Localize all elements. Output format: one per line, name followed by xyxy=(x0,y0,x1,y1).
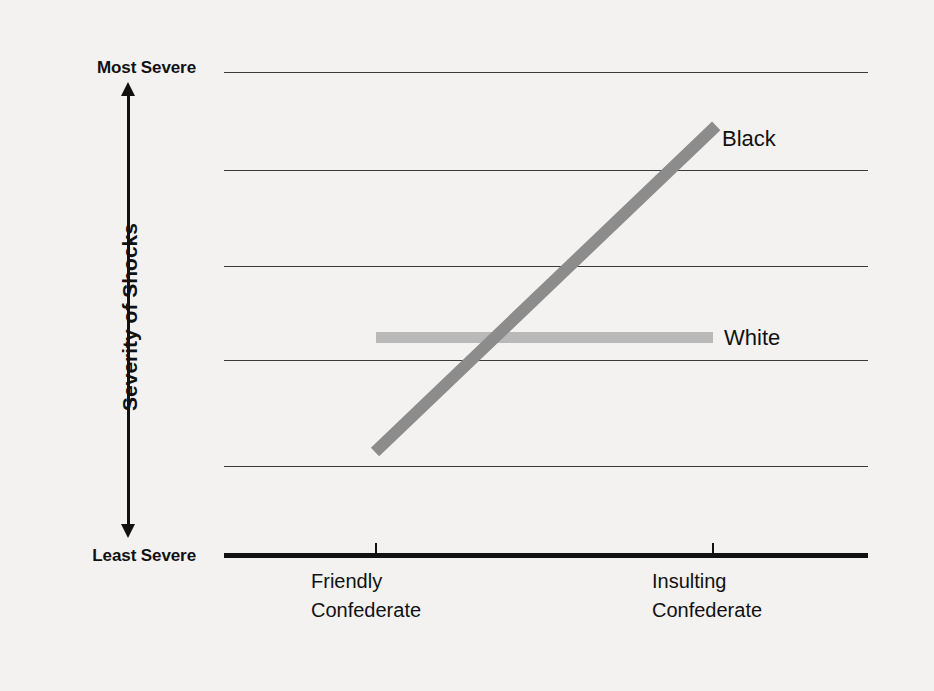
gridline xyxy=(224,72,868,73)
x-axis-category-friendly: Friendly Confederate xyxy=(311,567,421,625)
plot-area: Most Severe Least Severe Severity of Sho… xyxy=(0,0,934,691)
x-axis-category-insulting-line2: Confederate xyxy=(652,596,762,625)
y-axis-top-label: Most Severe xyxy=(0,58,196,78)
series-label-white: White xyxy=(724,325,780,351)
gridline xyxy=(224,170,868,171)
arrow-down-icon xyxy=(121,524,135,538)
x-axis-category-friendly-line2: Confederate xyxy=(311,596,421,625)
x-axis-category-insulting: Insulting Confederate xyxy=(652,567,762,625)
series-label-black: Black xyxy=(722,126,776,152)
x-axis-line xyxy=(224,553,868,558)
x-axis-tick-friendly xyxy=(375,543,377,554)
gridline xyxy=(224,266,868,267)
series-line-white xyxy=(376,332,713,343)
x-axis-category-friendly-line1: Friendly xyxy=(311,567,421,596)
series-line-black xyxy=(371,122,721,457)
arrow-up-icon xyxy=(121,82,135,96)
gridline xyxy=(224,360,868,361)
x-axis-tick-insulting xyxy=(712,543,714,554)
x-axis-category-insulting-line1: Insulting xyxy=(652,567,762,596)
y-axis-bottom-label: Least Severe xyxy=(0,546,196,566)
chart-figure: Most Severe Least Severe Severity of Sho… xyxy=(0,0,934,691)
gridline xyxy=(224,466,868,467)
y-axis-title: Severity of Shocks xyxy=(118,142,142,492)
